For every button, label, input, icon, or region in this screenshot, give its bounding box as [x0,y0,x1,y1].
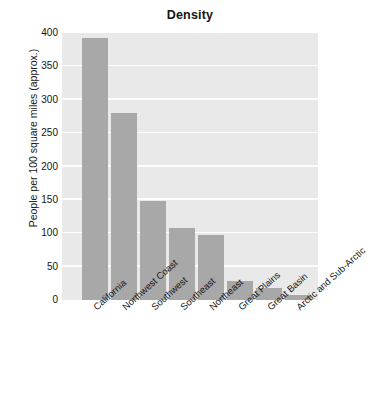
y-axis-tick-label: 350 [28,61,58,71]
y-axis-tick-label: 300 [28,95,58,105]
y-axis-tick-labels: 050100150200250300350400 [24,33,58,300]
bar [82,38,108,300]
y-axis-tick-label: 400 [28,28,58,38]
x-axis-tick-labels: CaliforniaNorthwest CoastSouthwestSouthe… [62,300,328,398]
y-axis-tick-label: 50 [28,262,58,272]
y-axis-tick-label: 150 [28,195,58,205]
y-axis-tick-label: 0 [28,295,58,305]
y-axis-tick-label: 100 [28,228,58,238]
plot-area [62,33,318,300]
y-axis-tick-label: 200 [28,162,58,172]
chart-title: Density [62,8,318,22]
y-axis-tick-label: 250 [28,128,58,138]
bar [111,113,137,300]
